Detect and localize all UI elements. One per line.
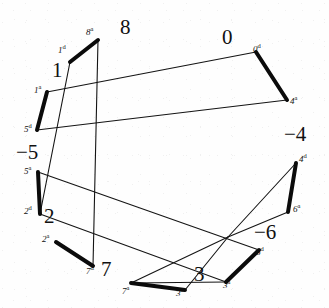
endpoint-label-3a: 3a [223,279,230,290]
thick-edge-v6d-v3a [226,250,259,282]
endpoint-superscript: d [29,122,32,129]
face-label-3: 3 [194,264,205,285]
thin-edge-v1a-v0d [47,52,256,92]
thin-edge-v8a-v7d [93,40,98,266]
endpoint-superscript: a [29,164,32,171]
thin-edge-v1d-v2d [40,62,70,214]
endpoint-label-6a: 6a [293,203,300,214]
endpoint-label-1a: 1a [34,84,41,95]
endpoint-label-5d: 5d [24,123,32,134]
face-label-0: 0 [222,27,233,48]
face-label-minus4: −4 [284,124,306,145]
thick-edge-v1a-v5d [37,92,47,130]
face-label-minus5: −5 [16,142,38,163]
thick-edge-v5a-v2d [38,172,40,214]
face-label-1: 1 [52,60,63,81]
face-label-2: 2 [44,206,55,227]
endpoint-label-8a: 8a [86,26,93,37]
endpoint-label-4d: 4d [299,153,307,164]
endpoint-label-7a: 7a [122,285,129,296]
endpoint-label-6d: 6d [256,246,264,257]
endpoint-label-3d: 3d [176,287,184,298]
face-label-minus6: −6 [254,222,276,243]
thick-edge-v1d-v8a [70,40,98,62]
thin-edge-v7a-vcross [131,237,228,283]
endpoint-label-2a: 2a [42,233,49,244]
endpoint-label-4a: 4a [290,95,297,106]
endpoint-superscript: d [304,152,307,159]
endpoint-label-0d: 0d [253,43,261,54]
endpoint-superscript: d [29,204,32,211]
endpoint-superscript: d [91,264,94,271]
endpoint-superscript: d [258,42,261,49]
endpoint-superscript: d [181,286,184,293]
face-label-7: 7 [101,259,112,280]
endpoint-superscript: a [298,202,301,209]
endpoint-superscript: d [261,245,264,252]
endpoint-label-7d: 7d [86,265,94,276]
endpoint-superscript: a [127,284,130,291]
thick-edge-v2a-v7d [56,242,93,266]
endpoint-superscript: a [47,232,50,239]
geometry-diagram: 801−5−42−673 8a1d0d4a1a5d5a2d2a7d4d6a6d3… [0,0,329,308]
endpoint-superscript: a [91,25,94,32]
endpoint-superscript: a [295,94,298,101]
endpoint-label-2d: 2d [24,205,32,216]
endpoint-superscript: a [228,278,231,285]
endpoint-label-1d: 1d [58,44,66,55]
thin-edge-v5d-v4a [37,100,287,130]
thick-edge-v0d-v4a [256,52,287,100]
endpoint-superscript: d [63,43,66,50]
face-label-8: 8 [120,17,131,38]
endpoint-label-5a: 5a [24,165,31,176]
diagram-linework [0,0,329,308]
endpoint-superscript: a [39,83,42,90]
